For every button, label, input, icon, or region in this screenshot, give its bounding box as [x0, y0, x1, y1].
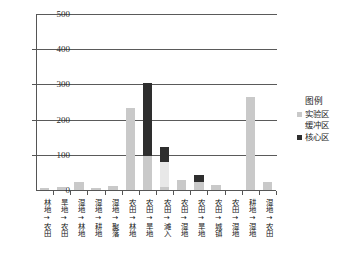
bar-8 [177, 180, 187, 190]
legend-label-buffer: 缓冲区 [305, 120, 329, 132]
bar-segment-5-0 [126, 108, 136, 190]
bar-segment-8-0 [177, 180, 187, 190]
legend-swatch-core [297, 135, 302, 140]
x-axis-label-4: 湿地→聚落 [108, 198, 119, 237]
x-tick-2 [87, 191, 88, 195]
bar-segment-9-2 [194, 175, 204, 182]
bar-segment-6-2 [143, 83, 153, 156]
bar-segment-3-0 [91, 188, 101, 190]
legend-item-core[interactable]: 核心区 [297, 132, 349, 144]
x-axis-label-8: 农田→湿地 [176, 198, 187, 237]
bar-1 [57, 187, 67, 190]
x-axis-label-10: 农田→城镇 [211, 198, 222, 237]
bar-segment-13-0 [263, 182, 273, 190]
bar-13 [263, 182, 273, 190]
x-axis-label-9: 农田→旱地 [193, 198, 204, 237]
bar-segment-2-0 [74, 182, 84, 190]
bar-segment-9-0 [194, 182, 204, 190]
bar-4 [108, 186, 118, 190]
bar-segment-1-0 [57, 187, 67, 190]
x-axis-label-2: 湿地→林地 [73, 198, 84, 237]
legend: 图例 实验区 缓冲区 核心区 [297, 96, 349, 143]
x-axis-label-13: 湿地→农田 [262, 198, 273, 237]
x-tick-12 [259, 191, 260, 195]
x-axis-label-6: 农田→旱地 [142, 198, 153, 237]
bar-0 [40, 188, 50, 190]
bar-segment-10-0 [211, 185, 221, 190]
x-tick-1 [70, 191, 71, 195]
x-tick-3 [105, 191, 106, 195]
x-tick-7 [173, 191, 174, 195]
x-tick-13 [276, 191, 277, 195]
chart-container: 500 400 300 200 100 0 林地→农田旱地→农田湿地→林地湿地→… [0, 0, 351, 266]
x-axis-label-12: 耕地→湿地 [245, 198, 256, 237]
x-tick-11 [242, 191, 243, 195]
legend-label-experimental: 实验区 [305, 109, 329, 121]
bar-10 [211, 185, 221, 190]
x-axis-label-5: 农田→林地 [125, 198, 136, 237]
legend-swatch-buffer [297, 123, 302, 128]
bar-9 [194, 175, 204, 190]
x-axis-label-11: 农田→湿地 [228, 198, 239, 237]
x-tick-0 [53, 191, 54, 195]
bar-6 [143, 83, 153, 190]
bar-series-layer [36, 14, 276, 190]
x-tick-5 [139, 191, 140, 195]
bar-segment-6-0 [143, 156, 153, 190]
legend-swatch-experimental [297, 112, 302, 117]
legend-title: 图例 [305, 96, 349, 108]
x-axis-label-7: 农田→滩入 [159, 198, 170, 237]
bar-segment-7-0 [160, 187, 170, 190]
bar-segment-12-0 [246, 97, 256, 190]
x-axis-label-0: 林地→农田 [39, 198, 50, 237]
bar-3 [91, 188, 101, 190]
x-tick-9 [207, 191, 208, 195]
x-tick-6 [156, 191, 157, 195]
legend-label-core: 核心区 [305, 132, 329, 144]
bar-segment-0-0 [40, 188, 50, 190]
bar-12 [246, 97, 256, 190]
legend-item-buffer[interactable]: 缓冲区 [297, 120, 349, 132]
bar-7 [160, 147, 170, 190]
bar-2 [74, 182, 84, 190]
legend-item-experimental[interactable]: 实验区 [297, 109, 349, 121]
x-tick-4 [122, 191, 123, 195]
x-tick-10 [225, 191, 226, 195]
bar-segment-4-0 [108, 186, 118, 190]
x-tick-8 [190, 191, 191, 195]
bar-segment-7-2 [160, 147, 170, 162]
bar-segment-7-1 [160, 162, 170, 187]
bar-5 [126, 108, 136, 190]
x-axis-label-3: 湿地→耕地 [91, 198, 102, 237]
x-axis-label-1: 旱地→农田 [56, 198, 67, 237]
